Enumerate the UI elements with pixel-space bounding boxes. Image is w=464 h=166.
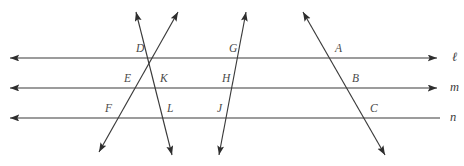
line-m-name-label: m xyxy=(450,80,459,94)
point-C-label: C xyxy=(370,102,378,114)
geometry-diagram: DGAEKHBFLJC ℓmn xyxy=(0,0,464,166)
point-B-label: B xyxy=(352,72,359,84)
point-K-label: K xyxy=(159,72,169,84)
point-J-label: J xyxy=(217,102,223,114)
point-E-label: E xyxy=(123,72,131,84)
point-F-label: F xyxy=(104,102,113,114)
line-n-name-label: n xyxy=(450,110,456,124)
line-l-name-label: ℓ xyxy=(452,50,457,64)
transversals-group xyxy=(99,12,385,155)
point-labels-group: DGAEKHBFLJC xyxy=(104,42,378,114)
point-D-label: D xyxy=(135,42,145,54)
point-G-label: G xyxy=(229,42,238,54)
point-L-label: L xyxy=(166,102,174,114)
point-H-label: H xyxy=(221,72,231,84)
diagram-canvas: DGAEKHBFLJC ℓmn xyxy=(0,0,464,166)
transversal-4 xyxy=(303,12,385,155)
point-A-label: A xyxy=(334,42,343,54)
line-labels-group: ℓmn xyxy=(450,50,459,124)
